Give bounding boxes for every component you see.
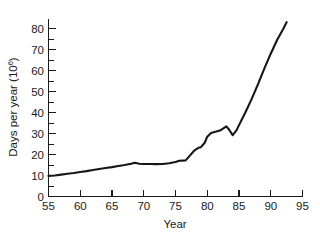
x-tick-label-70: 70 bbox=[137, 200, 150, 212]
x-axis-tick-labels: 55 60 65 70 75 80 85 90 95 bbox=[42, 200, 309, 212]
y-tick-label-40: 40 bbox=[31, 107, 44, 119]
x-tick-label-65: 65 bbox=[106, 200, 119, 212]
data-series-line bbox=[49, 22, 287, 176]
x-tick-label-85: 85 bbox=[233, 200, 246, 212]
y-tick-label-20: 20 bbox=[31, 149, 44, 161]
y-tick-label-70: 70 bbox=[31, 44, 44, 56]
x-axis-ticks bbox=[49, 190, 303, 197]
line-chart: 0 10 20 30 40 50 60 70 80 55 60 65 70 75… bbox=[0, 0, 320, 234]
x-axis-title: Year bbox=[163, 218, 186, 230]
y-axis-tick-labels: 0 10 20 30 40 50 60 70 80 bbox=[31, 23, 44, 203]
y-axis-title: Days per year (106) bbox=[6, 57, 19, 157]
y-axis-ticks bbox=[49, 29, 56, 197]
x-tick-label-90: 90 bbox=[264, 200, 277, 212]
x-tick-label-55: 55 bbox=[42, 200, 55, 212]
chart-figure: 0 10 20 30 40 50 60 70 80 55 60 65 70 75… bbox=[0, 0, 320, 234]
x-tick-label-80: 80 bbox=[201, 200, 214, 212]
y-tick-label-60: 60 bbox=[31, 65, 44, 77]
y-tick-label-50: 50 bbox=[31, 86, 44, 98]
x-tick-label-95: 95 bbox=[296, 200, 309, 212]
svg-text:Days per year (106): Days per year (106) bbox=[6, 57, 19, 157]
y-tick-label-80: 80 bbox=[31, 23, 44, 35]
chart-axes bbox=[49, 19, 303, 197]
x-tick-label-60: 60 bbox=[74, 200, 87, 212]
y-tick-label-30: 30 bbox=[31, 128, 44, 140]
x-tick-label-75: 75 bbox=[169, 200, 182, 212]
y-axis-title-end: ) bbox=[7, 57, 19, 61]
y-axis-title-main: Days per year (10 bbox=[7, 65, 19, 156]
y-tick-label-10: 10 bbox=[31, 170, 44, 182]
